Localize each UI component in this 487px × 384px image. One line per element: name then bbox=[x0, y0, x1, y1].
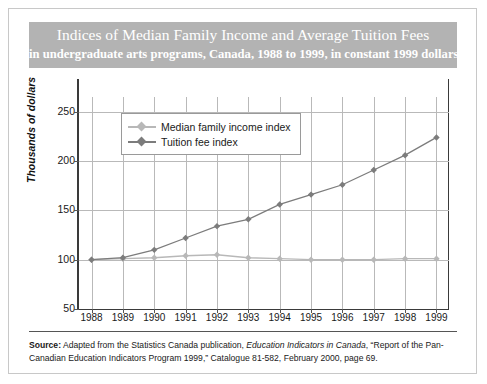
legend-label-income: Median family income index bbox=[161, 121, 291, 133]
source-note: Source: Adapted from the Statistics Cana… bbox=[29, 339, 459, 365]
chart-title: Indices of Median Family Income and Aver… bbox=[29, 25, 457, 45]
source-text-before: Adapted from the Statistics Canada publi… bbox=[61, 340, 246, 350]
figure-container: Indices of Median Family Income and Aver… bbox=[8, 8, 477, 374]
series-line bbox=[92, 137, 437, 259]
y-tick-label-200: 200 bbox=[35, 154, 75, 166]
data-point-marker bbox=[245, 255, 251, 261]
legend-item-income: Median family income index bbox=[128, 119, 291, 134]
data-point-marker bbox=[308, 256, 314, 262]
data-point-marker bbox=[433, 256, 439, 262]
data-point-marker bbox=[276, 201, 282, 207]
chart-legend: Median family income index Tuition fee i… bbox=[121, 113, 301, 155]
data-point-marker bbox=[151, 255, 157, 261]
y-tick-label-150: 150 bbox=[35, 203, 75, 215]
data-point-marker bbox=[339, 256, 345, 262]
data-point-marker bbox=[276, 256, 282, 262]
data-point-marker bbox=[88, 256, 94, 262]
x-axis-line bbox=[77, 309, 449, 310]
data-point-marker bbox=[371, 167, 377, 173]
data-point-marker bbox=[214, 252, 220, 258]
data-point-marker bbox=[402, 256, 408, 262]
legend-item-tuition: Tuition fee index bbox=[128, 134, 291, 149]
chart-subtitle: in undergraduate arts programs, Canada, … bbox=[29, 45, 457, 63]
data-point-marker bbox=[433, 134, 439, 140]
chart-title-banner: Indices of Median Family Income and Aver… bbox=[29, 22, 457, 68]
legend-marker-income-icon bbox=[128, 122, 156, 132]
legend-label-tuition: Tuition fee index bbox=[161, 136, 238, 148]
y-tick-label-100: 100 bbox=[35, 253, 75, 265]
data-point-marker bbox=[120, 255, 126, 261]
data-point-marker bbox=[339, 182, 345, 188]
y-axis-label: Thousands of dollars bbox=[25, 77, 37, 183]
source-label: Source: bbox=[29, 340, 61, 350]
y-tick-label-250: 250 bbox=[35, 105, 75, 117]
x-tick-label-1999: 1999 bbox=[414, 312, 458, 323]
data-point-marker bbox=[402, 152, 408, 158]
data-point-marker bbox=[308, 191, 314, 197]
data-point-marker bbox=[245, 216, 251, 222]
source-publication-title: Education Indicators in Canada bbox=[246, 340, 365, 350]
data-point-marker bbox=[182, 253, 188, 259]
plot-area: 50100150200250 1988198919901991199219931… bbox=[79, 97, 449, 309]
data-point-marker bbox=[371, 256, 377, 262]
chart-area: Thousands of dollars 50100150200250 1988… bbox=[29, 79, 457, 324]
series-line bbox=[92, 255, 437, 260]
data-point-marker bbox=[182, 235, 188, 241]
data-point-marker bbox=[151, 247, 157, 253]
data-point-marker bbox=[214, 223, 220, 229]
legend-marker-tuition-icon bbox=[128, 137, 156, 147]
source-divider bbox=[29, 331, 457, 332]
y-tick-mark-50 bbox=[74, 309, 79, 310]
